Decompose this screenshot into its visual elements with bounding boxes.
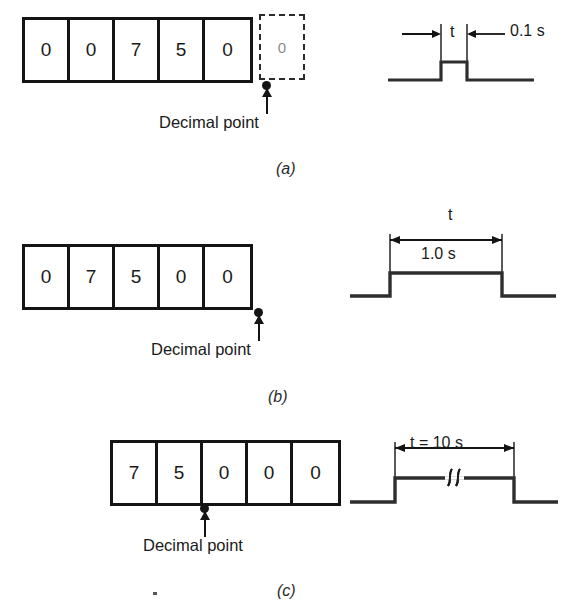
panel-letter-c: (c)	[277, 582, 296, 600]
digit-cell: 0	[293, 443, 338, 503]
waveform-c-duration: t = 10 s	[410, 434, 463, 452]
decimal-point-label-b: Decimal point	[151, 340, 251, 359]
digit-cell: 7	[70, 247, 115, 307]
waveform-a-symbol: t	[450, 23, 454, 41]
digit-cell: 7	[113, 443, 158, 503]
digit-cell: 0	[25, 20, 70, 80]
digit-cell: 5	[158, 443, 203, 503]
waveform-b-symbol: t	[448, 206, 452, 224]
panel-letter-a: (a)	[276, 160, 296, 178]
panel-letter-b: (b)	[268, 388, 288, 406]
digit-cell: 5	[160, 20, 205, 80]
digit-display-b: 0 7 5 0 0	[22, 244, 253, 310]
digit-cell: 7	[115, 20, 160, 80]
digit-display-a: 0 0 7 5 0	[22, 17, 253, 83]
scan-artifact-speck	[153, 592, 157, 595]
digit-cell: 5	[115, 247, 160, 307]
digit-cell: 0	[25, 247, 70, 307]
digit-cell: 0	[203, 443, 248, 503]
decimal-point-label-a: Decimal point	[159, 113, 259, 132]
ghost-digit-cell-a: 0	[259, 14, 305, 80]
digit-cell: 0	[160, 247, 205, 307]
waveform-b-duration: 1.0 s	[421, 245, 456, 263]
ghost-digit-value: 0	[278, 39, 286, 56]
digit-cell: 0	[205, 247, 250, 307]
digit-cell: 0	[248, 443, 293, 503]
digit-cell: 0	[205, 20, 250, 80]
decimal-point-label-c: Decimal point	[143, 536, 243, 555]
waveform-a-duration: 0.1 s	[510, 22, 545, 40]
digit-cell: 0	[70, 20, 115, 80]
decimal-point-arrowhead	[254, 315, 264, 324]
digit-display-c: 7 5 0 0 0	[110, 440, 341, 506]
decimal-point-arrowhead	[262, 88, 272, 97]
decimal-point-arrowhead	[200, 511, 210, 520]
